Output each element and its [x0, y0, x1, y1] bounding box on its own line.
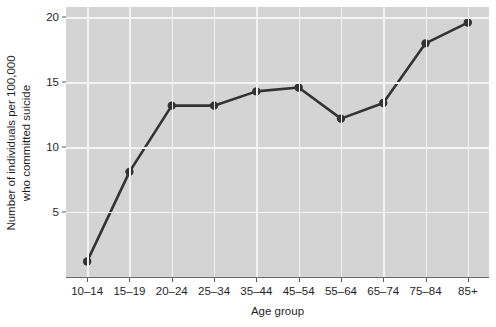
gridline-vertical — [383, 7, 384, 277]
gridline-vertical — [214, 7, 215, 277]
x-axis-title: Age group — [66, 305, 489, 317]
x-axis-tick-label: 35–44 — [240, 285, 272, 297]
x-axis-tick-mark — [129, 278, 130, 282]
series-line — [87, 23, 468, 262]
x-axis-tick-marks — [66, 278, 489, 283]
gridline-vertical — [129, 7, 130, 277]
x-axis-tick-mark — [299, 278, 300, 282]
x-axis-tick-mark — [468, 278, 469, 282]
x-axis-tick-labels: 10–1415–1920–2425–3435–4445–5455–6465–74… — [66, 285, 489, 301]
x-axis-tick-label: 20–24 — [156, 285, 188, 297]
y-axis-title-line-2: who committed suicide — [19, 55, 34, 230]
gridline-vertical — [468, 7, 469, 277]
x-axis-tick-mark — [214, 278, 215, 282]
x-axis-tick-mark — [87, 278, 88, 282]
gridline-vertical — [299, 7, 300, 277]
x-axis-tick-label: 65–74 — [367, 285, 399, 297]
x-axis-tick-label: 15–19 — [113, 285, 145, 297]
x-axis-tick-mark — [256, 278, 257, 282]
x-axis-tick-label: 45–54 — [283, 285, 315, 297]
y-axis-title: Number of individuals per 100,000 who co… — [0, 0, 38, 285]
x-axis-tick-label: 85+ — [458, 285, 478, 297]
x-axis-tick-mark — [172, 278, 173, 282]
x-axis-tick-label: 10–14 — [71, 285, 103, 297]
y-axis-tick-label: 15 — [38, 76, 59, 88]
y-axis-tick-labels: 5101520 — [38, 0, 59, 327]
chart-figure: Number of individuals per 100,000 who co… — [0, 0, 496, 327]
x-axis-tick-label: 75–84 — [410, 285, 442, 297]
y-axis-title-line-1: Number of individuals per 100,000 — [4, 55, 19, 230]
plot-panel — [66, 7, 489, 277]
gridline-vertical — [341, 7, 342, 277]
y-axis-tick-label: 10 — [38, 141, 59, 153]
x-axis-tick-mark — [341, 278, 342, 282]
gridline-vertical — [256, 7, 257, 277]
x-axis-tick-label: 25–34 — [198, 285, 230, 297]
y-axis-tick-label: 5 — [38, 206, 59, 218]
gridline-vertical — [87, 7, 88, 277]
x-axis-tick-label: 55–64 — [325, 285, 357, 297]
x-axis-tick-mark — [383, 278, 384, 282]
series-points-group — [83, 18, 472, 265]
x-axis-tick-mark — [426, 278, 427, 282]
y-axis-tick-label: 20 — [38, 11, 59, 23]
gridline-vertical — [426, 7, 427, 277]
gridline-vertical — [172, 7, 173, 277]
